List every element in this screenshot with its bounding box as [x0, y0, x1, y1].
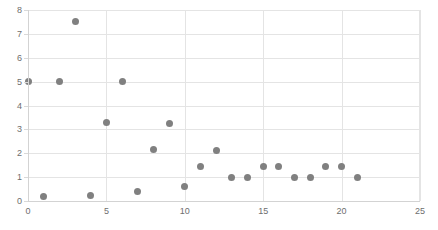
gridline-y-7 — [28, 34, 420, 35]
gridline-x-20 — [342, 10, 343, 201]
x-tick-label-25: 25 — [415, 207, 425, 216]
data-point — [56, 78, 63, 85]
data-point — [40, 193, 47, 200]
data-point — [354, 174, 361, 181]
y-tick-label-5: 5 — [8, 77, 22, 86]
y-tick-6 — [24, 58, 28, 59]
gridline-y-4 — [28, 106, 420, 107]
y-tick-label-8: 8 — [8, 6, 22, 15]
y-tick-label-1: 1 — [8, 173, 22, 182]
y-axis-line — [28, 10, 29, 201]
y-tick-7 — [24, 34, 28, 35]
data-point — [150, 146, 157, 153]
gridline-y-6 — [28, 58, 420, 59]
data-point — [291, 174, 298, 181]
data-point — [87, 192, 94, 199]
data-point — [134, 188, 141, 195]
x-tick-label-5: 5 — [104, 207, 109, 216]
data-point — [260, 163, 267, 170]
y-tick-2 — [24, 153, 28, 154]
y-tick-label-2: 2 — [8, 149, 22, 158]
y-tick-8 — [24, 10, 28, 11]
x-tick-label-20: 20 — [337, 207, 347, 216]
gridline-y-3 — [28, 129, 420, 130]
data-point — [228, 174, 235, 181]
data-point — [103, 119, 110, 126]
y-tick-3 — [24, 129, 28, 130]
gridline-y-5 — [28, 82, 420, 83]
data-point — [166, 120, 173, 127]
gridline-y-8 — [28, 10, 420, 11]
y-tick-label-7: 7 — [8, 29, 22, 38]
gridline-x-15 — [263, 10, 264, 201]
y-tick-5 — [24, 82, 28, 83]
y-tick-1 — [24, 177, 28, 178]
y-tick-label-3: 3 — [8, 125, 22, 134]
gridline-x-5 — [106, 10, 107, 201]
y-tick-label-6: 6 — [8, 53, 22, 62]
data-point — [244, 174, 251, 181]
gridline-y-1 — [28, 177, 420, 178]
data-point — [197, 163, 204, 170]
gridline-x-25 — [420, 10, 421, 201]
x-tick-label-0: 0 — [25, 207, 30, 216]
scatter-chart: 012345678 0510152025 — [0, 0, 438, 230]
data-point — [307, 174, 314, 181]
data-point — [338, 163, 345, 170]
y-tick-label-4: 4 — [8, 101, 22, 110]
gridline-y-2 — [28, 153, 420, 154]
data-point — [119, 78, 126, 85]
data-point — [181, 183, 188, 190]
x-tick-label-15: 15 — [258, 207, 268, 216]
data-point — [72, 18, 79, 25]
plot-area — [28, 10, 420, 201]
x-tick-label-10: 10 — [180, 207, 190, 216]
y-tick-0 — [24, 201, 28, 202]
y-tick-label-0: 0 — [8, 197, 22, 206]
gridline-x-10 — [185, 10, 186, 201]
data-point — [322, 163, 329, 170]
data-point — [275, 163, 282, 170]
x-axis-line — [28, 201, 420, 202]
data-point — [213, 147, 220, 154]
y-tick-4 — [24, 106, 28, 107]
